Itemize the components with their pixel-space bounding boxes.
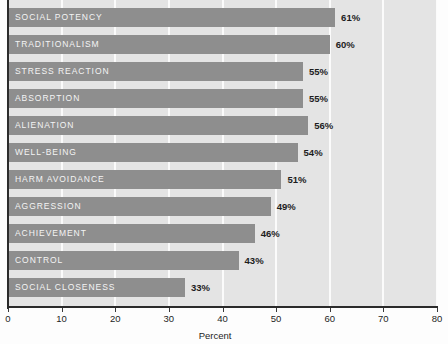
- x-tick-70: [383, 308, 384, 312]
- bar-row[interactable]: SOCIAL POTENCY61%: [8, 8, 437, 27]
- bar-chart-figure: SOCIAL POTENCY61%TRADITIONALISM60%STRESS…: [0, 0, 448, 344]
- x-tick-label: 10: [56, 313, 67, 324]
- bar-value-label: 51%: [287, 170, 306, 189]
- x-tick-label: 40: [217, 313, 228, 324]
- bar-value-label: 43%: [245, 251, 264, 270]
- bar-row[interactable]: WELL-BEING54%: [8, 143, 437, 162]
- bar-row[interactable]: TRADITIONALISM60%: [8, 35, 437, 54]
- bar-row[interactable]: ALIENATION56%: [8, 116, 437, 135]
- bar-category-label: SOCIAL CLOSENESS: [15, 278, 115, 297]
- bar-category-label: ALIENATION: [15, 116, 74, 135]
- x-tick-label: 50: [271, 313, 282, 324]
- plot-area: SOCIAL POTENCY61%TRADITIONALISM60%STRESS…: [8, 0, 437, 307]
- bar-value-label: 54%: [304, 143, 323, 162]
- bar-value-label: 46%: [261, 224, 280, 243]
- x-tick-label: 20: [110, 313, 121, 324]
- x-axis-title: Percent: [199, 330, 232, 341]
- bar-value-label: 33%: [191, 278, 210, 297]
- bar-category-label: TRADITIONALISM: [15, 35, 100, 54]
- bar-category-label: SOCIAL POTENCY: [15, 8, 103, 27]
- x-tick-label: 60: [324, 313, 335, 324]
- x-tick-80: [437, 308, 438, 312]
- x-tick-label: 80: [432, 313, 443, 324]
- bar-row[interactable]: HARM AVOIDANCE51%: [8, 170, 437, 189]
- bar-category-label: ABSORPTION: [15, 89, 80, 108]
- x-tick-40: [223, 308, 224, 312]
- bar-row[interactable]: CONTROL43%: [8, 251, 437, 270]
- bar-value-label: 56%: [314, 116, 333, 135]
- bar-row[interactable]: ABSORPTION55%: [8, 89, 437, 108]
- bar-category-label: HARM AVOIDANCE: [15, 170, 105, 189]
- x-tick-50: [276, 308, 277, 312]
- bar-value-label: 61%: [341, 8, 360, 27]
- x-tick-20: [115, 308, 116, 312]
- bar-category-label: ACHIEVEMENT: [15, 224, 87, 243]
- bar-row[interactable]: SOCIAL CLOSENESS33%: [8, 278, 437, 297]
- bar-category-label: WELL-BEING: [15, 143, 77, 162]
- x-tick-0: [8, 308, 9, 312]
- bar-value-label: 55%: [309, 62, 328, 81]
- bar-row[interactable]: STRESS REACTION55%: [8, 62, 437, 81]
- x-tick-label: 70: [378, 313, 389, 324]
- bar-value-label: 60%: [336, 35, 355, 54]
- bar-value-label: 55%: [309, 89, 328, 108]
- bar-value-label: 49%: [277, 197, 296, 216]
- x-tick-label: 30: [164, 313, 175, 324]
- bar-row[interactable]: ACHIEVEMENT46%: [8, 224, 437, 243]
- bar-category-label: CONTROL: [15, 251, 63, 270]
- y-axis-line: [7, 0, 9, 309]
- bar-category-label: STRESS REACTION: [15, 62, 110, 81]
- bar-category-label: AGGRESSION: [15, 197, 82, 216]
- bar-row[interactable]: AGGRESSION49%: [8, 197, 437, 216]
- x-tick-30: [169, 308, 170, 312]
- x-tick-60: [330, 308, 331, 312]
- x-tick-10: [62, 308, 63, 312]
- x-tick-label: 0: [5, 313, 10, 324]
